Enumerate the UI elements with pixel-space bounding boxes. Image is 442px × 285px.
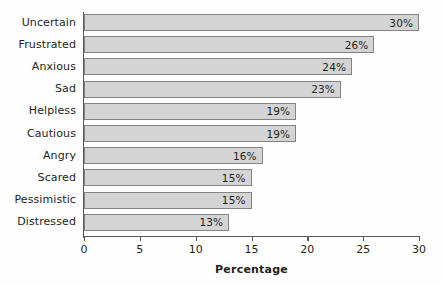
category-label-distressed: Distressed (0, 215, 76, 228)
category-label-cautious: Cautious (0, 127, 76, 140)
category-label-sad: Sad (0, 82, 76, 95)
bar-row: 19% (84, 103, 419, 120)
category-label-helpless: Helpless (0, 104, 76, 117)
bar (84, 125, 296, 142)
bar-chart: UncertainFrustratedAnxiousSadHelplessCau… (0, 0, 442, 285)
tick-mark (419, 236, 420, 241)
bar (84, 14, 419, 31)
bar-value-label: 26% (345, 39, 369, 51)
tick-label-20: 20 (300, 243, 314, 256)
bar (84, 58, 352, 75)
bar (84, 81, 341, 98)
bar (84, 36, 374, 53)
bar-row: 23% (84, 81, 419, 98)
tick-label-10: 10 (189, 243, 203, 256)
bar-value-label: 30% (389, 17, 413, 29)
category-label-pessimistic: Pessimistic (0, 193, 76, 206)
bar-value-label: 19% (267, 105, 291, 117)
category-label-uncertain: Uncertain (0, 16, 76, 29)
category-label-scared: Scared (0, 171, 76, 184)
category-label-anxious: Anxious (0, 60, 76, 73)
bar-row: 24% (84, 58, 419, 75)
tick-mark (84, 236, 85, 241)
x-axis-title: Percentage (84, 263, 419, 276)
tick-mark (196, 236, 197, 241)
bar-value-label: 16% (233, 150, 257, 162)
bar-row: 13% (84, 214, 419, 231)
tick-mark (307, 236, 308, 241)
tick-label-0: 0 (81, 243, 88, 256)
bar-row: 26% (84, 36, 419, 53)
tick-mark (140, 236, 141, 241)
bar-value-label: 24% (322, 61, 346, 73)
bar-row: 15% (84, 169, 419, 186)
bar-value-label: 13% (200, 216, 224, 228)
tick-mark (363, 236, 364, 241)
tick-label-30: 30 (412, 243, 426, 256)
tick-label-5: 5 (136, 243, 143, 256)
tick-label-25: 25 (356, 243, 370, 256)
bar-value-label: 15% (222, 172, 246, 184)
bar-row: 30% (84, 14, 419, 31)
bar-value-label: 23% (311, 83, 335, 95)
bar-row: 16% (84, 147, 419, 164)
bar-value-label: 19% (267, 128, 291, 140)
tick-label-15: 15 (245, 243, 259, 256)
category-label-frustrated: Frustrated (0, 38, 76, 51)
bar-row: 15% (84, 192, 419, 209)
bar (84, 103, 296, 120)
bar-row: 19% (84, 125, 419, 142)
bar-value-label: 15% (222, 194, 246, 206)
category-label-angry: Angry (0, 149, 76, 162)
tick-mark (252, 236, 253, 241)
